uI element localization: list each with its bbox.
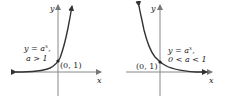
point-0-1 [158,60,161,63]
point-label: (0, 1) [136,62,158,71]
equation-label: y = ax, [23,43,51,53]
equation-label: y = ax, [167,45,195,55]
condition-label: a > 1 [26,54,48,63]
condition-label: 0 < a < 1 [168,55,207,64]
point-label: (0, 1) [60,61,82,70]
growth-panel: y x (0, 1) y = ax, a > 1 [14,4,102,96]
y-axis-label: y [49,4,55,13]
x-axis-label: x [97,76,102,85]
exponential-graphs: y x (0, 1) y = ax, a > 1 y x (0, 1) y = … [0,0,227,101]
y-axis-label: y [150,4,156,13]
x-axis-label: x [209,76,214,85]
decay-panel: y x (0, 1) y = ax, 0 < a < 1 [126,4,214,96]
